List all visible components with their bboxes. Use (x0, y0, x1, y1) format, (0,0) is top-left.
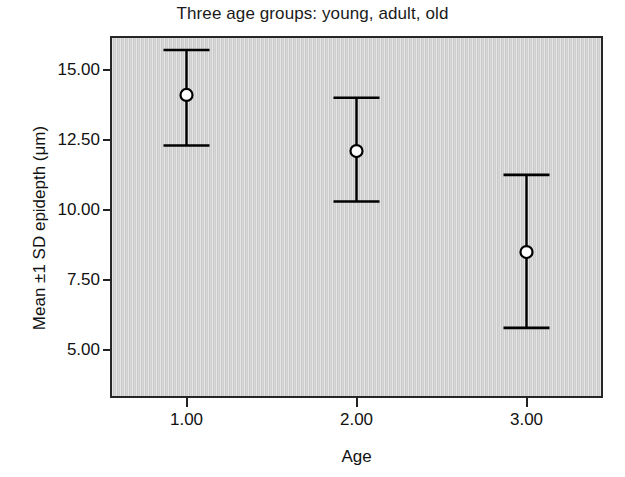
y-tick-label: 5.00 (4, 340, 100, 360)
mean-marker (351, 145, 363, 157)
x-tick-mark (356, 398, 358, 407)
x-axis-title: Age (110, 447, 603, 467)
x-tick-label: 1.00 (132, 410, 242, 430)
y-tick-mark (103, 139, 111, 141)
y-tick-mark (103, 349, 111, 351)
x-tick-mark (526, 398, 528, 407)
mean-marker (181, 89, 193, 101)
y-axis-ticks: 5.007.5010.0012.5015.00 (0, 0, 100, 477)
error-bar-group (164, 50, 210, 145)
y-tick-mark (103, 209, 111, 211)
y-tick-label: 7.50 (4, 270, 100, 290)
y-tick-mark (103, 69, 111, 71)
plot-data-layer (110, 36, 603, 398)
x-tick-mark (186, 398, 188, 407)
y-tick-mark (103, 279, 111, 281)
x-tick-label: 2.00 (302, 410, 412, 430)
error-bar-group (334, 98, 380, 202)
x-tick-label: 3.00 (472, 410, 582, 430)
y-tick-label: 15.00 (4, 60, 100, 80)
y-tick-label: 12.50 (4, 130, 100, 150)
chart-figure: Three age groups: young, adult, old 5.00… (0, 0, 625, 477)
y-tick-label: 10.00 (4, 200, 100, 220)
mean-marker (521, 246, 533, 258)
y-axis-title: Mean ±1 SD epidepth (μm) (30, 28, 50, 428)
error-bar-group (504, 175, 550, 328)
